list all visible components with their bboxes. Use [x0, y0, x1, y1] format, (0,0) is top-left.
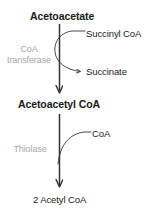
enzyme-coa-transferase-line1: CoA — [2, 44, 56, 55]
enzyme-thiolase: Thiolase — [6, 144, 54, 155]
enzyme-coa-transferase: CoA transferase — [2, 44, 56, 66]
cofactor-bow-2 — [58, 132, 91, 164]
metabolite-acetoacetyl-coa: Acetoacetyl CoA — [18, 99, 100, 110]
metabolite-acetoacetate: Acetoacetate — [30, 11, 94, 22]
cofactor-succinyl-coa: Succinyl CoA — [86, 29, 141, 39]
enzyme-thiolase-line1: Thiolase — [6, 144, 54, 155]
cofactor-coa: CoA — [92, 129, 110, 139]
cofactor-succinate: Succinate — [86, 67, 127, 77]
pathway-diagram: Acetoacetate Succinyl CoA CoA transferas… — [0, 0, 146, 214]
enzyme-coa-transferase-line2: transferase — [2, 55, 56, 66]
metabolite-acetyl-coa: 2 Acetyl CoA — [33, 195, 86, 205]
